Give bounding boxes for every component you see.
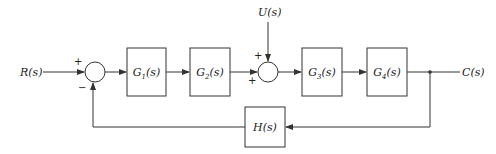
- summing-junction-2: [258, 62, 278, 82]
- disturbance-label: U(s): [258, 6, 282, 19]
- block-g1-label: G1(s): [133, 66, 161, 81]
- block-diagram: R(s) + − G1(s) G2(s) + + U(s) G3(s) G4(s…: [0, 0, 496, 154]
- input-label: R(s): [19, 66, 43, 79]
- block-g4-label: G4(s): [373, 66, 401, 81]
- sj2-top-plus-sign: +: [254, 50, 262, 61]
- sj1-plus-sign: +: [74, 56, 82, 67]
- block-h-label: H(s): [252, 121, 277, 134]
- block-g2-label: G2(s): [196, 66, 224, 81]
- summing-junction-1: [85, 62, 105, 82]
- sj1-minus-sign: −: [78, 82, 86, 93]
- block-g3-label: G3(s): [308, 66, 336, 81]
- sj2-left-plus-sign: +: [248, 75, 256, 86]
- output-label: C(s): [462, 66, 485, 79]
